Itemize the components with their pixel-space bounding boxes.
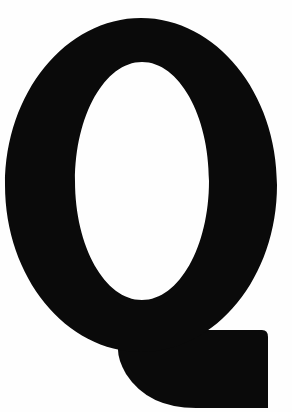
glyph-canvas: Large black uppercase letter Q on a whit…: [0, 0, 292, 412]
letter-q-glyph: Large black uppercase letter Q on a whit…: [0, 0, 292, 412]
